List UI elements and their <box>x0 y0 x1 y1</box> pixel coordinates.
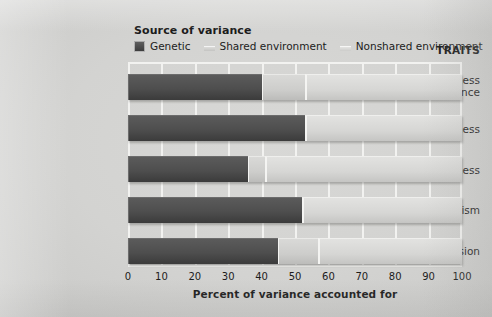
legend-label-shared: Shared environment <box>220 41 327 52</box>
xtick-50: 50 <box>289 271 302 282</box>
xtick-60: 60 <box>322 271 335 282</box>
bar-extraversion <box>128 238 462 264</box>
legend-label-genetic: Genetic <box>150 41 191 52</box>
xtick-70: 70 <box>355 271 368 282</box>
bar-segment-genetic <box>128 238 278 264</box>
xtick-40: 40 <box>255 271 268 282</box>
bar-openness <box>128 74 462 100</box>
bar-segment-nonshared <box>318 238 462 264</box>
bar-segment-shared <box>262 74 305 100</box>
legend: Genetic Shared environment Nonshared env… <box>134 41 483 52</box>
bar-conscientiousness <box>128 115 462 141</box>
bar-segment-nonshared <box>302 197 462 223</box>
bar-segment-nonshared <box>265 156 462 182</box>
legend-title: Source of variance <box>134 24 252 37</box>
traits-axis-heading: TRAITS <box>436 44 480 56</box>
legend-swatch-nonshared-icon <box>340 46 351 51</box>
legend-swatch-genetic-icon <box>134 41 145 52</box>
xtick-10: 10 <box>155 271 168 282</box>
x-axis-title: Percent of variance accounted for <box>128 288 462 300</box>
xtick-0: 0 <box>125 271 131 282</box>
bar-neuroticism <box>128 197 462 223</box>
legend-item-shared: Shared environment <box>204 41 327 52</box>
bar-segment-shared <box>248 156 265 182</box>
bar-agreeableness <box>128 156 462 182</box>
bar-segment-genetic <box>128 74 262 100</box>
xtick-80: 80 <box>389 271 402 282</box>
legend-swatch-shared-icon <box>204 46 215 51</box>
bar-segment-nonshared <box>305 74 462 100</box>
plot-area <box>128 62 462 267</box>
xtick-90: 90 <box>422 271 435 282</box>
xtick-100: 100 <box>452 271 471 282</box>
xtick-20: 20 <box>188 271 201 282</box>
xtick-30: 30 <box>222 271 235 282</box>
legend-item-genetic: Genetic <box>134 41 191 52</box>
chart-figure: Source of variance Genetic Shared enviro… <box>0 0 492 317</box>
bar-segment-nonshared <box>305 115 462 141</box>
bar-segment-genetic <box>128 115 305 141</box>
bar-segment-genetic <box>128 197 302 223</box>
bar-segment-shared <box>278 238 318 264</box>
bar-segment-genetic <box>128 156 248 182</box>
